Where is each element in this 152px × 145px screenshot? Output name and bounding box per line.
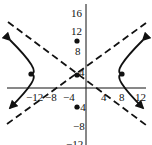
y-tick-label: −8: [73, 120, 85, 132]
y-tick-label: 4: [79, 66, 85, 78]
y-tick-label: 8: [75, 45, 81, 57]
vertex-left: [28, 71, 33, 76]
x-tick-label: −8: [45, 91, 57, 103]
hyperbola-graph: −12 −8 −4 4 8 12 16 12 8 4 −4 −8 −12: [0, 0, 152, 145]
y-tick-label: 12: [71, 25, 82, 37]
y-tick-label: 16: [71, 7, 83, 19]
x-tick-label: 12: [135, 91, 146, 103]
x-tick-label: 8: [119, 91, 125, 103]
focus-upper: [74, 38, 79, 43]
y-tick-label: −4: [74, 101, 86, 113]
vertex-right: [119, 71, 124, 76]
x-tick-label: 4: [101, 91, 107, 103]
x-tick-label: −12: [26, 91, 43, 103]
y-tick-label: −12: [66, 138, 83, 145]
